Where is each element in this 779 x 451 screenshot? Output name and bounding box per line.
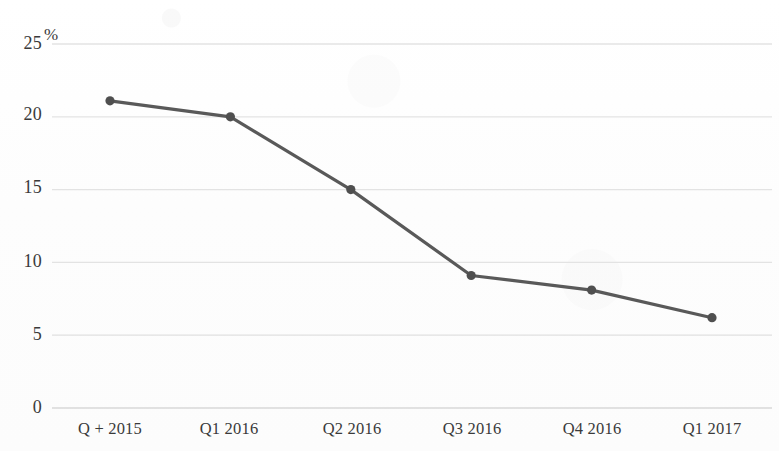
y-axis-tick-10: 10	[0, 251, 42, 272]
x-axis-tick-2: Q1 2016	[159, 419, 299, 439]
y-axis-tick-20: 20	[0, 104, 42, 125]
y-axis-tick-0-value: 0	[33, 397, 42, 417]
y-axis-tick-20-value: 20	[23, 104, 42, 124]
x-axis-tick-5-label: Q4 2016	[563, 419, 622, 438]
y-axis-tick-0: 0	[0, 397, 42, 418]
x-axis-tick-4: Q3 2016	[402, 419, 542, 439]
x-axis-tick-3-label: Q2 2016	[323, 419, 382, 438]
data-point-2	[226, 112, 235, 121]
data-point-5	[587, 286, 596, 295]
y-axis-tick-25: 25%	[0, 33, 42, 54]
data-series-group	[105, 96, 716, 322]
line-chart-plot	[0, 0, 779, 451]
data-point-6	[707, 313, 716, 322]
x-axis-tick-6-label: Q1 2017	[683, 419, 742, 438]
x-axis-tick-1-label: Q + 2015	[78, 419, 142, 438]
data-line	[110, 101, 712, 318]
y-axis-tick-5-value: 5	[33, 324, 42, 344]
percent-unit-label: %	[44, 25, 58, 45]
y-axis-tick-25-value: 25	[23, 33, 42, 53]
x-axis-tick-6: Q1 2017	[642, 419, 779, 439]
data-point-3	[346, 185, 355, 194]
y-axis-tick-5: 5	[0, 324, 42, 345]
y-axis-tick-10-value: 10	[23, 251, 42, 271]
gridline-group	[52, 44, 772, 408]
y-axis-tick-15-value: 15	[23, 177, 42, 197]
x-axis-tick-2-label: Q1 2016	[200, 419, 259, 438]
x-axis-tick-3: Q2 2016	[282, 419, 422, 439]
y-axis-tick-15: 15	[0, 177, 42, 198]
data-point-4	[467, 271, 476, 280]
data-point-1	[105, 96, 114, 105]
chart-container: 25% 20 15 10 5 0 Q + 2015 Q1 2016 Q2 201…	[0, 0, 779, 451]
x-axis-tick-5: Q4 2016	[522, 419, 662, 439]
x-axis-tick-4-label: Q3 2016	[443, 419, 502, 438]
